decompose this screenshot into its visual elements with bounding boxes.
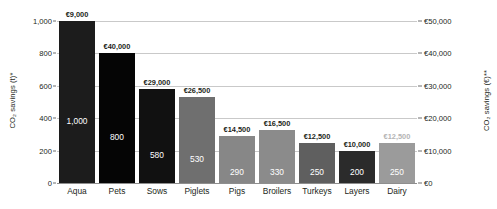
bar-value-label: 580 <box>150 150 164 160</box>
bar-euro-label: €26,500 <box>184 86 211 95</box>
y-axis-right-tick-label: €10,000 <box>424 146 451 155</box>
y-axis-left-title: CO₂ savings (t)* <box>8 53 17 149</box>
bar-value-label: 800 <box>110 132 124 142</box>
bar-euro-label: €16,500 <box>264 119 291 128</box>
y-axis-left-tick-mark <box>53 183 56 184</box>
x-axis-tick-label: Dairy <box>377 186 417 196</box>
x-axis-tick-label: Sows <box>137 186 177 196</box>
bar-value-label: 250 <box>310 167 324 177</box>
bar-slot: 200€10,000 <box>337 0 377 183</box>
y-axis-right-title: CO₂ savings (€)** <box>482 53 491 149</box>
bar-euro-label: €10,000 <box>344 140 371 149</box>
bar[interactable]: 290 <box>219 136 254 183</box>
y-axis-right-tick-label: €0 <box>424 179 432 188</box>
gridline <box>57 183 417 184</box>
bar-value-label: 530 <box>190 154 204 164</box>
bar[interactable]: 1,000 <box>59 21 94 183</box>
x-axis-tick-label: Turkeys <box>297 186 337 196</box>
bar-slot: 580€29,000 <box>137 0 177 183</box>
x-axis-tick-label: Pets <box>97 186 137 196</box>
y-axis-right-tick-mark <box>418 21 422 22</box>
y-axis-left-tick-label: 800 <box>39 49 52 58</box>
x-axis-tick-label: Pigs <box>217 186 257 196</box>
bar-euro-label: €14,500 <box>224 125 251 134</box>
x-axis-tick-label: Broilers <box>257 186 297 196</box>
y-axis-left-tick-label: 400 <box>39 114 52 123</box>
y-axis-right-tick-mark <box>418 85 422 86</box>
y-axis-left-tick-label: 600 <box>39 81 52 90</box>
bar-value-label: 330 <box>270 167 284 177</box>
plot-area: 02004006008001,000 €0€10,000€20,000€30,0… <box>57 21 417 183</box>
bar-series: 1,000€9,000800€40,000580€29,000530€26,50… <box>57 21 417 183</box>
y-axis-left-tick-mark <box>53 85 56 86</box>
bar-value-label: 200 <box>350 167 364 177</box>
y-axis-left-tick-label: 0 <box>48 179 52 188</box>
y-axis-right-tick-label: €40,000 <box>424 49 451 58</box>
y-axis-right-tick-mark <box>418 118 422 119</box>
bar-value-label: 290 <box>230 167 244 177</box>
bar-slot: 330€16,500 <box>257 0 297 183</box>
bar-slot: 250€12,500 <box>297 0 337 183</box>
bar[interactable]: 530 <box>179 97 214 183</box>
bar-value-label: 250 <box>390 167 404 177</box>
bar-euro-label: €9,000 <box>66 10 89 19</box>
bar-chart: CO₂ savings (t)* CO₂ savings (€)** 02004… <box>0 0 497 209</box>
bar-slot: 1,000€9,000 <box>57 0 97 183</box>
bar-slot: 800€40,000 <box>97 0 137 183</box>
y-axis-right-tick-mark <box>418 53 422 54</box>
x-axis-tick-label: Piglets <box>177 186 217 196</box>
bar-euro-label: €12,500 <box>304 132 331 141</box>
y-axis-left-tick-mark <box>53 150 56 151</box>
y-axis-right-tick-label: €30,000 <box>424 81 451 90</box>
y-axis-right-tick-label: €50,000 <box>424 17 451 26</box>
bar[interactable]: 200 <box>339 151 374 183</box>
y-axis-left-tick-mark <box>53 21 56 22</box>
bar-euro-label: €29,000 <box>144 78 171 87</box>
y-axis-left-tick-label: 200 <box>39 146 52 155</box>
bar-slot: 290€14,500 <box>217 0 257 183</box>
x-axis-tick-label: Aqua <box>57 186 97 196</box>
bar-euro-label: €12,500 <box>384 132 411 141</box>
bar[interactable]: 330 <box>259 130 294 183</box>
y-axis-right-tick-mark <box>418 183 422 184</box>
bar-value-label: 1,000 <box>66 116 87 126</box>
y-axis-left-tick-mark <box>53 53 56 54</box>
bar-euro-label: €40,000 <box>104 42 131 51</box>
x-axis-tick-label: Layers <box>337 186 377 196</box>
x-axis-category-labels: AquaPetsSowsPigletsPigsBroilersTurkeysLa… <box>57 186 417 202</box>
y-axis-right-tick-label: €20,000 <box>424 114 451 123</box>
bar[interactable]: 580 <box>139 89 174 183</box>
bar[interactable]: 800 <box>99 53 134 183</box>
bar-slot: 250€12,500 <box>377 0 417 183</box>
y-axis-left-tick-label: 1,000 <box>33 17 52 26</box>
bar-slot: 530€26,500 <box>177 0 217 183</box>
bar[interactable]: 250 <box>299 143 334 184</box>
y-axis-left-tick-mark <box>53 118 56 119</box>
bar[interactable]: 250 <box>379 143 414 184</box>
y-axis-right-tick-mark <box>418 150 422 151</box>
